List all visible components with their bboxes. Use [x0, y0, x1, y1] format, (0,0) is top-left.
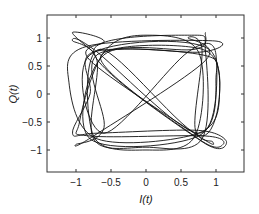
x-axis-label: I(t) [139, 193, 153, 205]
x-tick-label: −0.5 [101, 177, 121, 188]
y-axis-label: Q(t) [7, 84, 19, 103]
x-tick-label: 0 [143, 177, 149, 188]
x-tick-labels: −1−0.500.51 [70, 177, 219, 188]
x-tick-label: 1 [213, 177, 219, 188]
y-tick-label: −1 [31, 145, 43, 156]
iq-trajectory-chart: −1−0.500.51 10.50−0.5−1 I(t) Q(t) [0, 0, 259, 214]
x-tick-label: 0.5 [174, 177, 188, 188]
y-tick-label: 0.5 [28, 61, 42, 72]
y-tick-labels: 10.50−0.5−1 [22, 33, 42, 156]
y-tick-label: −0.5 [22, 117, 42, 128]
x-tick-label: −1 [70, 177, 82, 188]
y-tick-label: 1 [36, 33, 42, 44]
y-tick-label: 0 [36, 89, 42, 100]
